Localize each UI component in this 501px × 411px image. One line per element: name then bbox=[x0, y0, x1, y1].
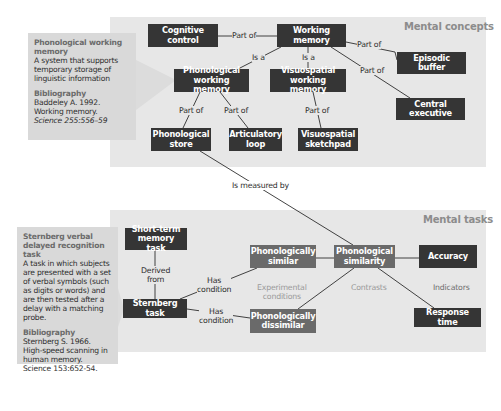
node-visuospatial-sketchpad[interactable]: Visuospatial sketchpad bbox=[298, 128, 358, 151]
edge-label-is-a-visuospatial: Is a bbox=[302, 53, 315, 62]
info-citation-source: Science 153:652-54. bbox=[23, 364, 112, 373]
edge-label-part-of-sketchpad: Part of bbox=[305, 106, 329, 115]
info-box-phonological-working-memory: Phonological working memory A system tha… bbox=[28, 33, 136, 140]
edge-label-has-condition-similar: Has condition bbox=[197, 276, 231, 294]
node-phonologically-dissimilar[interactable]: Phonologically dissimilar bbox=[250, 309, 316, 333]
mental-tasks-title: Mental tasks bbox=[423, 214, 493, 225]
edge-label-part-of-store: Part of bbox=[179, 106, 203, 115]
node-episodic-buffer[interactable]: Episodic buffer bbox=[397, 52, 466, 74]
node-central-executive[interactable]: Central executive bbox=[396, 98, 465, 120]
edge-label-part-of-loop: Part of bbox=[224, 106, 248, 115]
info-citation-author: Baddeley A. 1992. bbox=[34, 98, 130, 107]
mental-concepts-title: Mental concepts bbox=[404, 21, 494, 32]
node-phonological-similarity[interactable]: Phonological similarity bbox=[334, 245, 395, 268]
edge-label-is-a-phonological: Is a bbox=[252, 53, 265, 62]
node-visuospatial-working-memory[interactable]: Visuospatial working memory bbox=[270, 69, 346, 92]
edge-label-is-measured-by: Is measured by bbox=[232, 181, 289, 190]
node-phonologically-similar[interactable]: Phonologically similar bbox=[250, 245, 316, 268]
node-phonological-working-memory[interactable]: Phonological working memory bbox=[174, 69, 249, 92]
info-definition: A task in which subjects are presented w… bbox=[23, 259, 112, 322]
info-bibliography-heading: Bibliography bbox=[34, 89, 130, 98]
node-cognitive-control[interactable]: Cognitive control bbox=[148, 24, 218, 47]
node-short-term-memory-task[interactable]: Short-term memory task bbox=[125, 228, 187, 250]
info-citation-author: Sternberg S. 1966. bbox=[23, 337, 112, 346]
group-label-contrasts: Contrasts bbox=[351, 283, 387, 292]
info-citation-title: High-speed scanning in human memory. bbox=[23, 346, 112, 364]
info-box-sternberg-task: Sternberg verbal delayed recognition tas… bbox=[17, 227, 118, 364]
info-citation-source: Science 255:556–59 bbox=[34, 116, 130, 125]
node-phonological-store[interactable]: Phonological store bbox=[151, 128, 211, 151]
edge-label-part-of-central: Part of bbox=[360, 66, 384, 75]
group-label-indicators: Indicators bbox=[433, 283, 470, 292]
node-working-memory[interactable]: Working memory bbox=[277, 24, 346, 47]
info-bibliography-heading: Bibliography bbox=[23, 328, 112, 337]
info-term: Sternberg verbal delayed recognition tas… bbox=[23, 232, 112, 259]
info-term: Phonological working memory bbox=[34, 38, 130, 56]
edge-label-derived-from: Derived from bbox=[141, 266, 170, 284]
node-sternberg-task[interactable]: Sternberg task bbox=[123, 299, 187, 318]
edge-label-part-of-cognitive: Part of bbox=[232, 31, 256, 40]
node-articulatory-loop[interactable]: Articulatory loop bbox=[229, 128, 282, 151]
edge-label-has-condition-dissimilar: Has condition bbox=[199, 307, 233, 325]
node-response-time[interactable]: Response time bbox=[414, 308, 481, 327]
node-accuracy[interactable]: Accuracy bbox=[419, 245, 477, 268]
edge-label-part-of-episodic: Part of bbox=[357, 40, 381, 49]
info-citation-title: Working memory. bbox=[34, 107, 130, 116]
info-definition: A system that supports temporary storage… bbox=[34, 56, 130, 83]
group-label-experimental-conditions: Experimental conditions bbox=[257, 283, 307, 301]
